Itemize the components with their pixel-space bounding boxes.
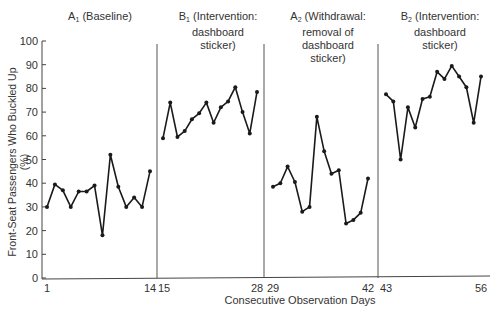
- data-point: [148, 169, 152, 173]
- x-tick-label: 56: [475, 282, 487, 294]
- data-point: [132, 195, 136, 199]
- phase-a2-line2: removal of: [278, 26, 378, 39]
- phase-b1-line3: sticker): [168, 39, 268, 52]
- data-point: [108, 153, 112, 157]
- data-point: [391, 99, 395, 103]
- phase-b2-sub: 2: [408, 16, 412, 23]
- data-point: [322, 149, 326, 153]
- phase-b1-sub: 1: [186, 16, 190, 23]
- phase-label-a2: A2 (Withdrawal: removal of dashboard sti…: [278, 10, 378, 65]
- data-point: [359, 211, 363, 215]
- data-point: [212, 121, 216, 125]
- data-point: [428, 95, 432, 99]
- data-point: [479, 75, 483, 79]
- data-point: [435, 70, 439, 74]
- phase-a1-sub: 1: [75, 16, 79, 23]
- x-tick-label: 42: [362, 282, 374, 294]
- axes: 0102030405060708090100114152829424356: [20, 35, 490, 294]
- data-point: [344, 221, 348, 225]
- data-point: [329, 172, 333, 176]
- data-point: [278, 181, 282, 185]
- data-point: [351, 218, 355, 222]
- phase-label-b2: B2 (Intervention: dashboard sticker): [390, 10, 490, 52]
- phase-a2-line1: (Withdrawal:: [305, 10, 366, 22]
- data-point: [308, 205, 312, 209]
- phase-b1-line2: dashboard: [168, 26, 268, 39]
- phase-b2-line3: sticker): [390, 39, 490, 52]
- data-point: [337, 168, 341, 172]
- data-point: [93, 184, 97, 188]
- phase-a2-line3: dashboard: [278, 39, 378, 52]
- data-point: [233, 85, 237, 89]
- data-point: [45, 205, 49, 209]
- data-point: [300, 210, 304, 214]
- x-tick-label: 1: [44, 282, 50, 294]
- x-axis-label: Consecutive Observation Days: [200, 294, 400, 306]
- x-tick-label: 14: [144, 282, 156, 294]
- data-point: [69, 205, 73, 209]
- data-point: [226, 99, 230, 103]
- data-point: [77, 189, 81, 193]
- data-point: [197, 111, 201, 115]
- data-point: [116, 185, 120, 189]
- phase-a2-line4: sticker): [278, 52, 378, 65]
- x-axis-line: [42, 276, 490, 279]
- y-tick-label: 100: [20, 35, 38, 47]
- phase-b1-letter: B: [179, 10, 186, 22]
- data-point: [464, 85, 468, 89]
- y-axis-label: Front-Seat Passengers Who Buckled Up (%): [6, 62, 30, 262]
- data-point: [85, 189, 89, 193]
- x-tick-label: 43: [380, 282, 392, 294]
- data-point: [413, 126, 417, 130]
- data-point: [168, 101, 172, 105]
- data-point: [384, 92, 388, 96]
- phase-label-a1: A1 (Baseline): [50, 10, 150, 26]
- data-point: [100, 233, 104, 237]
- data-point: [457, 75, 461, 79]
- phase-a2-sub: 2: [298, 16, 302, 23]
- data-point: [442, 77, 446, 81]
- x-tick-label: 29: [267, 282, 279, 294]
- data-point: [190, 117, 194, 121]
- phase-a1-text: (Baseline): [82, 10, 132, 22]
- series-line-4: [386, 66, 481, 160]
- data-point: [286, 165, 290, 169]
- data-point: [255, 90, 259, 94]
- phase-b2-letter: B: [401, 10, 408, 22]
- data-point: [315, 115, 319, 119]
- data-point: [53, 182, 57, 186]
- phase-b1-line1: (Intervention:: [193, 10, 257, 22]
- data-point: [421, 97, 425, 101]
- data-point: [248, 131, 252, 135]
- data-point: [366, 176, 370, 180]
- data-point: [293, 180, 297, 184]
- data-point: [241, 110, 245, 114]
- series-line-1: [47, 155, 150, 236]
- data-point: [140, 205, 144, 209]
- phase-a2-letter: A: [290, 10, 297, 22]
- series-line-3: [273, 117, 368, 224]
- x-tick-label: 28: [251, 282, 263, 294]
- phase-dividers: [157, 44, 378, 278]
- data-point: [450, 64, 454, 68]
- data-point: [161, 136, 165, 140]
- data-point: [271, 185, 275, 189]
- data-point: [406, 105, 410, 109]
- data-point: [124, 205, 128, 209]
- phase-label-b1: B1 (Intervention: dashboard sticker): [168, 10, 268, 52]
- data-point: [219, 105, 223, 109]
- phase-b2-line2: dashboard: [390, 26, 490, 39]
- data-point: [61, 188, 65, 192]
- data-point: [399, 158, 403, 162]
- phase-b2-line1: (Intervention:: [415, 10, 479, 22]
- y-tick-label: 0: [32, 272, 38, 284]
- data-point: [175, 135, 179, 139]
- data-point: [204, 101, 208, 105]
- x-tick-label: 15: [158, 282, 170, 294]
- data-point: [183, 129, 187, 133]
- data-point: [472, 121, 476, 125]
